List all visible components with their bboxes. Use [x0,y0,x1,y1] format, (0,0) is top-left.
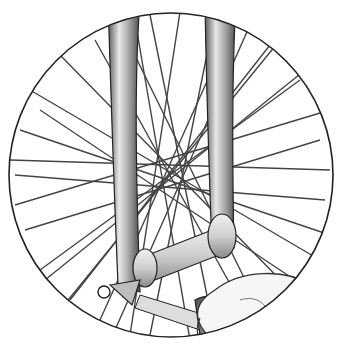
wheel-interior [10,0,330,351]
bicycle-hub-illustration [0,0,342,351]
hand [198,274,329,351]
right-fork-leg [205,0,236,250]
spoke [20,130,330,235]
left-fork-leg [108,0,140,292]
spoke [10,160,330,170]
quick-release-nut [98,286,110,298]
illustration-canvas [0,0,342,351]
hub-flange-right [208,214,236,258]
